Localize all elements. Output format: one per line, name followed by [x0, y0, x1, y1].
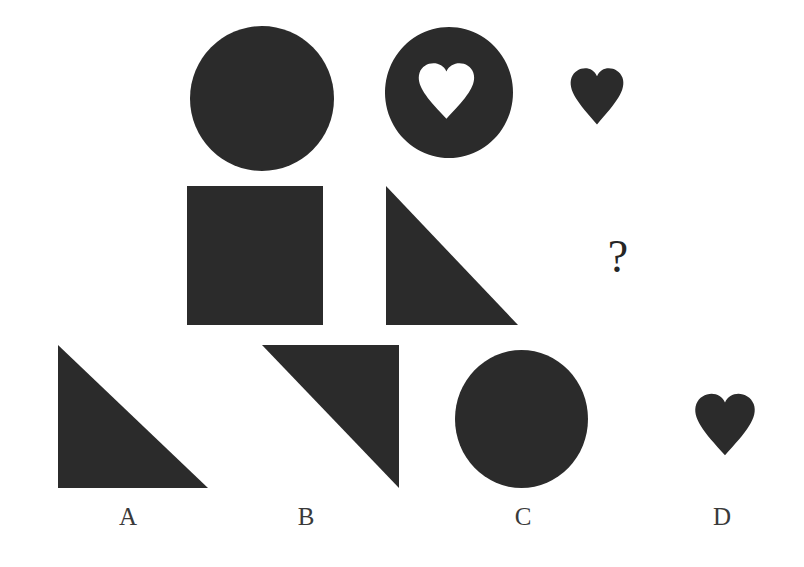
option-shape-b[interactable] [262, 345, 399, 488]
option-label-a[interactable]: A [108, 504, 148, 529]
option-shape-d[interactable] [690, 387, 760, 458]
matrix-cell-r1c1-circle-solid[interactable] [190, 26, 334, 171]
matrix-cell-r2c2-triangle-left-vertical[interactable] [386, 186, 518, 325]
matrix-cell-r1c3-heart-small[interactable] [566, 62, 628, 127]
triangle-bottom-left-icon [386, 186, 518, 325]
option-label-d[interactable]: D [702, 504, 742, 529]
option-label-c[interactable]: C [503, 504, 543, 529]
triangle-top-right-icon [262, 345, 399, 488]
matrix-cell-r1c2-circle-with-heart-hole[interactable] [385, 27, 513, 158]
matrix-cell-r2c1-square-solid[interactable] [187, 186, 323, 325]
option-shape-c[interactable] [455, 350, 588, 488]
option-shape-a[interactable] [58, 345, 208, 488]
triangle-bottom-left-icon [58, 345, 208, 488]
square-icon [187, 186, 323, 325]
heart-icon [566, 62, 628, 127]
circle-icon [190, 26, 334, 171]
puzzle-page: ? A B C D [0, 0, 804, 567]
circle-donut-heart-icon [385, 27, 513, 158]
missing-cell-question-mark[interactable]: ? [603, 234, 633, 282]
circle-icon [455, 350, 588, 488]
option-label-b[interactable]: B [286, 504, 326, 529]
heart-icon [690, 387, 760, 458]
